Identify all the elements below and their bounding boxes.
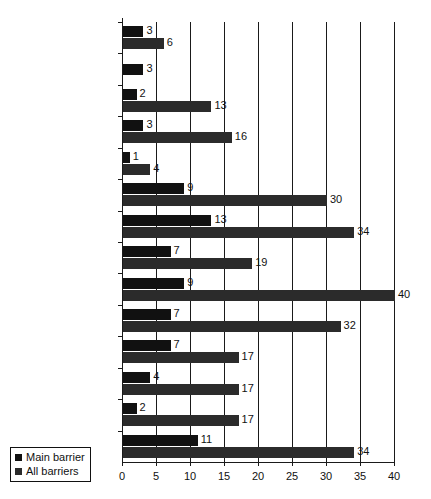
plot-area: Other36Ill health3Lack of self confidenc…: [122, 22, 394, 462]
bar-main-barrier: [123, 278, 184, 289]
bar-all-barriers: [123, 384, 239, 395]
bar-all-barriers: [123, 195, 327, 206]
bar-value-label-all-barriers: 34: [357, 446, 369, 457]
y-axis-tick: [118, 368, 122, 369]
category-row: Child care problems717: [122, 336, 394, 367]
bar-value-label-all-barriers: 17: [242, 414, 254, 425]
legend-swatch-icon-main-barrier: [15, 454, 22, 461]
legend-label-main-barrier: Main barrier: [26, 450, 85, 464]
bar-value-label-main-barrier: 3: [146, 25, 152, 36]
bar-value-label-all-barriers: 13: [214, 100, 226, 111]
bar-main-barrier: [123, 403, 137, 414]
y-axis-tick: [118, 399, 122, 400]
x-tick-label-10: 10: [178, 470, 202, 482]
y-axis-tick: [118, 211, 122, 212]
y-axis-tick: [118, 179, 122, 180]
bar-value-label-all-barriers: 40: [398, 289, 410, 300]
y-axis-tick: [118, 53, 122, 54]
x-tick-label-35: 35: [348, 470, 372, 482]
x-tick-label-0: 0: [110, 470, 134, 482]
bar-all-barriers: [123, 101, 211, 112]
category-row: Relevant vocational skills417: [122, 368, 394, 399]
bar-value-label-main-barrier: 3: [146, 63, 152, 74]
bar-main-barrier: [123, 152, 130, 163]
x-tick-label-20: 20: [246, 470, 270, 482]
bar-value-label-all-barriers: 16: [235, 131, 247, 142]
x-tick-label-40: 40: [382, 470, 406, 482]
bar-main-barrier: [123, 26, 143, 37]
bar-chart: Other36Ill health3Lack of self confidenc…: [0, 0, 431, 499]
x-tick-10: [190, 462, 191, 466]
legend-item-all-barriers: All barriers: [15, 464, 85, 478]
bar-value-label-main-barrier: 11: [201, 434, 212, 445]
x-tick-label-30: 30: [314, 470, 338, 482]
bar-value-label-main-barrier: 2: [140, 402, 146, 413]
x-tick-25: [292, 462, 293, 466]
bar-value-label-main-barrier: 9: [187, 277, 193, 288]
category-row: Language1134: [122, 431, 394, 462]
category-row: Lack of self confidence213: [122, 85, 394, 116]
bar-main-barrier: [123, 215, 211, 226]
y-axis-tick: [118, 273, 122, 274]
bar-value-label-main-barrier: 1: [133, 151, 139, 162]
bar-main-barrier: [123, 340, 171, 351]
bar-all-barriers: [123, 258, 252, 269]
legend-swatch-icon-all-barriers: [15, 468, 22, 475]
category-row: Sex discrimination14: [122, 148, 394, 179]
x-tick-30: [326, 462, 327, 466]
category-row: Lack of information732: [122, 305, 394, 336]
bar-main-barrier: [123, 64, 143, 75]
y-axis-tick: [118, 148, 122, 149]
category-row: Ill health3: [122, 53, 394, 84]
x-tick-35: [360, 462, 361, 466]
x-tick-20: [258, 462, 259, 466]
bar-all-barriers: [123, 352, 239, 363]
bar-main-barrier: [123, 309, 171, 320]
legend-item-main-barrier: Main barrier: [15, 450, 85, 464]
bar-value-label-all-barriers: 17: [242, 351, 254, 362]
bar-value-label-main-barrier: 3: [146, 119, 152, 130]
x-tick-40: [394, 462, 395, 466]
chart-legend: Main barrier All barriers: [10, 447, 91, 482]
bar-all-barriers: [123, 290, 395, 301]
bar-all-barriers: [123, 164, 150, 175]
bar-main-barrier: [123, 246, 171, 257]
y-axis-tick: [118, 242, 122, 243]
bar-main-barrier: [123, 372, 150, 383]
bar-all-barriers: [123, 227, 354, 238]
bar-value-label-main-barrier: 4: [153, 371, 159, 382]
y-axis-tick: [118, 305, 122, 306]
bar-value-label-all-barriers: 6: [167, 37, 173, 48]
bar-value-label-all-barriers: 30: [330, 194, 342, 205]
x-tick-15: [224, 462, 225, 466]
bar-main-barrier: [123, 89, 137, 100]
category-row: Lack of experience940: [122, 273, 394, 304]
legend-label-all-barriers: All barriers: [26, 464, 79, 478]
bar-all-barriers: [123, 447, 354, 458]
x-tick-label-5: 5: [144, 470, 168, 482]
bar-all-barriers: [123, 38, 164, 49]
y-axis-tick: [118, 431, 122, 432]
bar-value-label-main-barrier: 7: [174, 245, 180, 256]
x-tick-0: [122, 462, 123, 466]
bar-value-label-all-barriers: 32: [344, 320, 356, 331]
bar-value-label-main-barrier: 9: [187, 182, 193, 193]
category-row: Little work available719: [122, 242, 394, 273]
bar-value-label-all-barriers: 19: [255, 257, 267, 268]
bar-main-barrier: [123, 183, 184, 194]
bar-all-barriers: [123, 415, 239, 426]
bar-value-label-main-barrier: 13: [214, 214, 226, 225]
x-tick-label-25: 25: [280, 470, 304, 482]
bar-value-label-all-barriers: 4: [153, 163, 159, 174]
bar-main-barrier: [123, 120, 143, 131]
bar-all-barriers: [123, 321, 341, 332]
bar-all-barriers: [123, 132, 232, 143]
category-row: Racial discrimination930: [122, 179, 394, 210]
y-axis-tick: [118, 22, 122, 23]
category-row: Literacy217: [122, 399, 394, 430]
bar-main-barrier: [123, 435, 198, 446]
bar-value-label-main-barrier: 7: [174, 339, 180, 350]
bar-value-label-all-barriers: 34: [357, 226, 369, 237]
category-row: Wages too low316: [122, 116, 394, 147]
y-axis-tick: [118, 85, 122, 86]
